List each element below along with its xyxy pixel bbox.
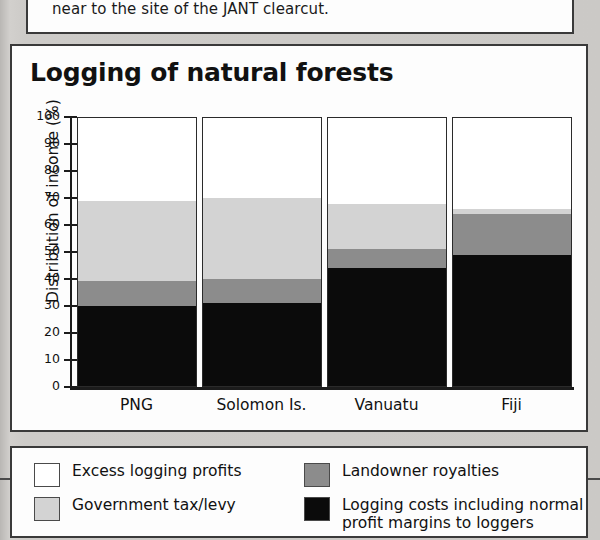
bar-segment [453, 209, 571, 214]
legend-item-logging-costs: Logging costs including normal profit ma… [304, 496, 583, 533]
legend-swatch-excess-logging-profits [34, 463, 60, 487]
legend-item-landowner-royalties: Landowner royalties [304, 462, 499, 487]
legend-label: Landowner royalties [342, 462, 499, 480]
stacked-bar [77, 117, 197, 387]
y-tick-label-text: 100 [20, 110, 60, 123]
bar-segment [203, 303, 321, 386]
x-tick-label: Vanuatu [324, 396, 449, 414]
chart-panel: Logging of natural forests Distribution … [10, 44, 588, 432]
legend-label: Government tax/levy [72, 496, 236, 514]
legend-swatch-government-tax-levy [34, 497, 60, 521]
y-tick-label: 100 [12, 110, 60, 122]
page-frame-rule-right [588, 478, 600, 480]
y-tick-label: 80 [12, 164, 60, 176]
legend-label: Excess logging profits [72, 462, 241, 480]
y-tick-label-text: 50 [20, 245, 60, 258]
stacked-bar [452, 117, 572, 387]
x-axis-tick-labels: PNGSolomon Is.VanuatuFiji [74, 396, 574, 420]
bar-segment [453, 118, 571, 209]
bar-segment [203, 279, 321, 303]
bar-segment [328, 249, 446, 268]
y-tick-label: 70 [12, 191, 60, 203]
y-tick-label: 40 [12, 272, 60, 284]
excerpt-text: near to the site of the JANT clearcut. [52, 0, 329, 18]
y-tick-label: 0 [12, 380, 60, 392]
x-axis-line [70, 387, 574, 390]
bar-segment [453, 255, 571, 386]
bar-segment [453, 214, 571, 254]
legend-label: Logging costs including normal profit ma… [342, 496, 583, 533]
legend-item-government-tax-levy: Government tax/levy [34, 496, 236, 521]
bar-segment [78, 118, 196, 201]
plot-area: Distribution of income (%) 0102030405060… [12, 46, 590, 434]
bar-segment [328, 268, 446, 386]
bar-group [74, 117, 574, 387]
y-tick-label-text: 40 [20, 272, 60, 285]
y-tick-label-text: 70 [20, 191, 60, 204]
stacked-bar [327, 117, 447, 387]
x-tick-label: Fiji [449, 396, 574, 414]
y-tick-label: 30 [12, 299, 60, 311]
legend-item-excess-logging-profits: Excess logging profits [34, 462, 241, 487]
y-tick-label: 60 [12, 218, 60, 230]
y-tick-label: 50 [12, 245, 60, 257]
bar-segment [78, 306, 196, 386]
y-tick-label-text: 20 [20, 326, 60, 339]
bar-segment [328, 118, 446, 204]
y-tick-label-text: 90 [20, 137, 60, 150]
y-tick-label-text: 80 [20, 164, 60, 177]
legend-panel: Excess logging profits Government tax/le… [10, 446, 588, 538]
bar-segment [328, 204, 446, 250]
y-tick-label-text: 30 [20, 299, 60, 312]
y-tick-label: 10 [12, 353, 60, 365]
excerpt-panel: near to the site of the JANT clearcut. [26, 0, 574, 34]
y-tick-label-text: 10 [20, 353, 60, 366]
y-tick-label-text: 60 [20, 218, 60, 231]
y-tick-label: 90 [12, 137, 60, 149]
bar-segment [78, 201, 196, 281]
x-tick-label: Solomon Is. [199, 396, 324, 414]
x-tick-label: PNG [74, 396, 199, 414]
legend-swatch-landowner-royalties [304, 463, 330, 487]
bar-segment [203, 198, 321, 278]
legend-swatch-logging-costs [304, 497, 330, 521]
y-tick-label-text: 0 [20, 380, 60, 393]
bar-segment [203, 118, 321, 198]
bar-segment [78, 281, 196, 305]
stacked-bar [202, 117, 322, 387]
y-tick-label: 20 [12, 326, 60, 338]
